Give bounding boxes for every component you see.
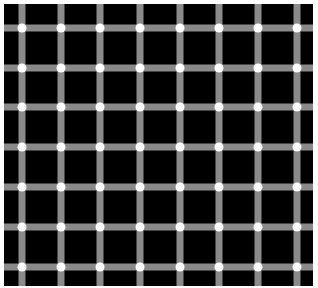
intersection-dot	[96, 64, 105, 73]
intersection-dot	[18, 223, 27, 232]
intersection-dot	[293, 103, 302, 112]
intersection-dot	[176, 64, 185, 73]
intersection-dot	[57, 103, 66, 112]
intersection-dot	[57, 143, 66, 152]
intersection-dot	[293, 263, 302, 272]
horizontal-bar	[4, 184, 313, 191]
intersection-dot	[254, 103, 263, 112]
intersection-dot	[136, 64, 145, 73]
horizontal-bar	[4, 144, 313, 151]
intersection-dot	[254, 143, 263, 152]
intersection-dot	[96, 143, 105, 152]
intersection-dot	[215, 183, 224, 192]
intersection-dot	[18, 263, 27, 272]
intersection-dot	[254, 24, 263, 33]
intersection-dot	[176, 143, 185, 152]
intersection-dot	[18, 64, 27, 73]
intersection-dot	[18, 143, 27, 152]
intersection-dot	[18, 103, 27, 112]
intersection-dot	[176, 24, 185, 33]
intersection-dot	[254, 223, 263, 232]
intersection-dot	[96, 263, 105, 272]
intersection-dot	[136, 103, 145, 112]
intersection-dot	[57, 24, 66, 33]
horizontal-bar	[4, 65, 313, 72]
intersection-dot	[215, 24, 224, 33]
horizontal-bar	[4, 224, 313, 231]
intersection-dot	[57, 183, 66, 192]
intersection-dot	[176, 263, 185, 272]
intersection-dot	[96, 103, 105, 112]
intersection-dot	[215, 103, 224, 112]
scintillating-grid-image	[0, 0, 318, 288]
intersection-dot	[96, 183, 105, 192]
intersection-dot	[176, 223, 185, 232]
intersection-dot	[293, 24, 302, 33]
intersection-dot	[254, 183, 263, 192]
intersection-dot	[293, 183, 302, 192]
intersection-dot	[293, 223, 302, 232]
intersection-dot	[136, 183, 145, 192]
horizontal-bar	[4, 104, 313, 111]
intersection-dot	[176, 103, 185, 112]
intersection-dot	[18, 24, 27, 33]
intersection-dot	[136, 143, 145, 152]
intersection-dot	[293, 64, 302, 73]
intersection-dot	[293, 143, 302, 152]
intersection-dot	[57, 64, 66, 73]
intersection-dot	[136, 263, 145, 272]
intersection-dot	[254, 64, 263, 73]
intersection-dot	[215, 263, 224, 272]
intersection-dot	[136, 223, 145, 232]
intersection-dot	[18, 183, 27, 192]
intersection-dot	[96, 24, 105, 33]
intersection-dot	[96, 223, 105, 232]
intersection-dot	[176, 183, 185, 192]
intersection-dot	[215, 143, 224, 152]
intersection-dot	[57, 223, 66, 232]
horizontal-bar	[4, 25, 313, 32]
intersection-dot	[136, 24, 145, 33]
intersection-dot	[254, 263, 263, 272]
intersection-dot	[57, 263, 66, 272]
intersection-dot	[215, 223, 224, 232]
intersection-dot	[215, 64, 224, 73]
horizontal-bar	[4, 264, 313, 271]
